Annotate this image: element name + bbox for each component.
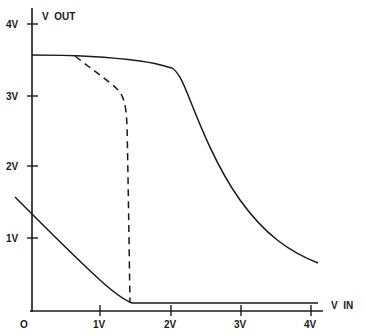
y-tick-label-1v: 1V: [6, 233, 19, 244]
y-axis-title: V OUT: [42, 11, 75, 22]
dashed-transfer-curve: [75, 56, 130, 303]
transfer-chart: 4V 3V 2V 1V O 1V 2V 3V 4V V OUT V IN: [0, 0, 365, 335]
origin-label: O: [20, 319, 28, 330]
x-tick-label-1v: 1V: [93, 319, 106, 330]
upper-transfer-curve: [32, 55, 318, 263]
y-tick-label-4v: 4V: [6, 19, 19, 30]
y-tick-label-3v: 3V: [6, 91, 19, 102]
x-tick-label-4v: 4V: [304, 319, 317, 330]
x-tick-label-2v: 2V: [164, 319, 177, 330]
x-tick-label-3v: 3V: [234, 319, 247, 330]
x-axis-title: V IN: [331, 300, 353, 311]
lower-curve: [15, 197, 318, 303]
y-tick-label-2v: 2V: [6, 161, 19, 172]
